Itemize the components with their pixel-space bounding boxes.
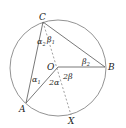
segment-CA xyxy=(26,22,43,103)
label-O: O xyxy=(47,62,55,72)
angle-2alpha: 2α xyxy=(48,78,60,87)
angle-alpha2: α2 xyxy=(37,37,46,47)
circle-geometry-diagram: C B A X O α2 β1 α1 β2 2α 2β xyxy=(0,0,126,128)
angle-beta2: β2 xyxy=(81,57,90,67)
circumcircle xyxy=(10,20,106,116)
angle-beta1: β1 xyxy=(46,35,55,45)
angle-2beta: 2β xyxy=(62,72,73,81)
label-B: B xyxy=(107,62,115,72)
label-X: X xyxy=(67,116,75,126)
label-A: A xyxy=(18,104,26,114)
label-C: C xyxy=(39,12,46,22)
angle-alpha1: α1 xyxy=(32,75,41,85)
